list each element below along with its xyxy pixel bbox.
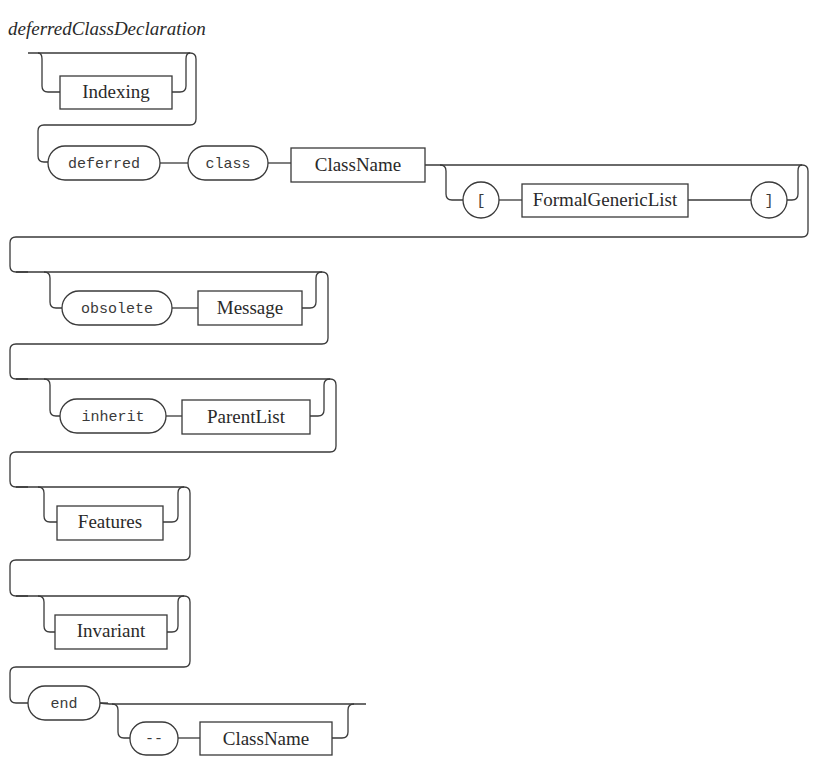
nonterminal-indexing-label: Indexing <box>82 81 150 102</box>
optional-inherit-group: inherit ParentList <box>10 379 336 487</box>
rail-branch-obsolete-out <box>302 272 322 308</box>
rail-branch-inherit-in <box>44 379 60 416</box>
optional-obsolete-group: obsolete Message <box>10 272 328 379</box>
rail-branch-features-out <box>163 487 184 522</box>
nonterminal-features-label: Features <box>78 511 142 532</box>
nonterminal-invariant-label: Invariant <box>77 620 146 641</box>
rail-branch-invariant-out <box>167 596 184 632</box>
rail-branch-invariant-in <box>38 596 55 632</box>
rail-end-join <box>100 703 112 704</box>
rail-branch-features-in <box>38 487 57 522</box>
rail-main-5 <box>10 487 190 596</box>
terminal-deferred-label: deferred <box>68 156 140 173</box>
optional-invariant-group: Invariant <box>10 596 190 703</box>
terminal-end-label: end <box>50 696 77 713</box>
rail-branch-indexing-in <box>38 53 60 92</box>
nonterminal-classname-label: ClassName <box>315 154 402 175</box>
railroad-diagram: Indexing deferred class ClassName [ Form… <box>0 0 829 778</box>
terminal-close-bracket-label: ] <box>764 193 773 210</box>
nonterminal-formal-generic-list-label: FormalGenericList <box>533 189 678 210</box>
rail-branch-generic-in <box>440 165 463 200</box>
rail-branch-generic-out <box>787 165 802 200</box>
end-group: end -- ClassName <box>28 686 366 755</box>
class-header-group: deferred class ClassName [ FormalGeneric… <box>10 146 808 272</box>
rail-branch-inherit-out <box>310 379 330 416</box>
optional-features-group: Features <box>10 487 190 596</box>
terminal-inherit-label: inherit <box>81 409 144 426</box>
nonterminal-message-label: Message <box>217 297 283 318</box>
terminal-class-label: class <box>205 156 250 173</box>
rail-branch-obsolete-in <box>44 272 62 308</box>
nonterminal-parentlist-label: ParentList <box>207 406 286 427</box>
terminal-open-bracket-label: [ <box>476 193 485 210</box>
rail-branch-comment-in <box>112 704 130 738</box>
rail-branch-indexing-out <box>172 53 190 92</box>
terminal-obsolete-label: obsolete <box>81 301 153 318</box>
rail-branch-comment-out <box>332 704 354 738</box>
nonterminal-end-classname-label: ClassName <box>223 728 310 749</box>
terminal-comment-dash-label: -- <box>145 731 163 748</box>
